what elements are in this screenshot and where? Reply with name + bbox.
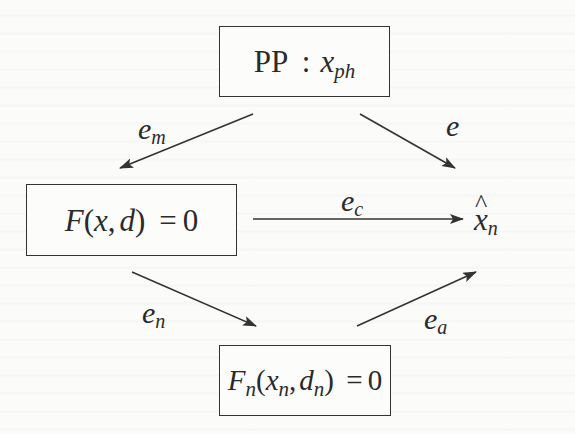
e-c-base: e [341, 184, 354, 217]
paren-close: ) [135, 203, 145, 238]
e-a-sub: a [437, 316, 447, 338]
pp-var-sub: ph [334, 59, 355, 83]
node-physical-problem-label: PP :xph [254, 46, 355, 77]
hat-accent: ^ [475, 191, 487, 217]
edge-label-e-m: em [138, 114, 166, 144]
continuous-func: F [65, 203, 84, 238]
pp-var: x [320, 44, 334, 79]
discrete-arg-d-sub: n [314, 377, 325, 401]
node-continuous-model-label: F(x,d) =0 [65, 205, 198, 236]
approx-var-sub: n [488, 217, 498, 239]
e-a-base: e [424, 302, 437, 335]
equals-sign: = [346, 364, 362, 396]
e-m-sub: m [151, 126, 165, 148]
discrete-func-sub: n [246, 377, 257, 401]
edge-label-e-n: en [142, 298, 165, 328]
hat-x: ^x [474, 204, 488, 235]
node-approx-solution: ^x n [474, 204, 498, 235]
paren-open: ( [256, 364, 266, 396]
paren-open: ( [84, 203, 94, 238]
continuous-rhs: 0 [183, 203, 199, 238]
edge-e-a-arrow [357, 272, 476, 326]
e-m-base: e [138, 112, 151, 145]
edge-label-e-a: ea [424, 304, 447, 334]
edge-label-e-c: ec [341, 186, 363, 216]
e-c-sub: c [354, 198, 363, 220]
discrete-rhs: 0 [368, 364, 383, 396]
pp-text: PP [254, 44, 287, 79]
comma: , [289, 364, 296, 396]
equals-sign: = [159, 203, 176, 238]
edge-e-arrow [360, 114, 455, 168]
edge-label-e: e [446, 111, 459, 141]
e-base: e [446, 109, 459, 142]
discrete-arg-x: x [266, 364, 279, 396]
discrete-arg-d: d [299, 364, 314, 396]
paren-close: ) [324, 364, 334, 396]
comma: , [108, 203, 116, 238]
node-discrete-model-label: Fn(xn,dn) =0 [228, 366, 382, 395]
node-physical-problem: PP :xph [219, 26, 390, 97]
node-discrete-model: Fn(xn,dn) =0 [219, 345, 391, 416]
discrete-arg-x-sub: n [279, 377, 290, 401]
e-n-base: e [142, 296, 155, 329]
pp-separator: : [302, 44, 311, 79]
node-continuous-model: F(x,d) =0 [26, 184, 237, 256]
e-n-sub: n [155, 310, 165, 332]
discrete-func: F [228, 364, 246, 396]
continuous-arg-x: x [94, 203, 108, 238]
continuous-arg-d: d [120, 203, 136, 238]
